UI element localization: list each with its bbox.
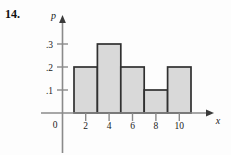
- histogram-figure: .3 .2 .1 0 2 4 6 8 10 p x: [0, 0, 231, 155]
- x-axis-arrow: [206, 110, 214, 117]
- x-tick-label-10: 10: [175, 121, 185, 131]
- bar-bin-1-3: [74, 67, 97, 113]
- y-axis-name-label: p: [50, 10, 56, 21]
- bar-bin-7-9: [144, 90, 167, 113]
- y-tick-label-0-2: .2: [46, 63, 53, 73]
- x-tick-label-2: 2: [83, 121, 88, 131]
- x-axis-name-label: x: [215, 115, 221, 126]
- x-tick-marks: [86, 113, 180, 121]
- x-tick-label-6: 6: [130, 121, 135, 131]
- y-tick-label-0-3: .3: [46, 40, 53, 50]
- x-tick-label-4: 4: [107, 121, 112, 131]
- x-tick-label-0: 0: [53, 120, 58, 130]
- bar-bin-9-11: [168, 67, 191, 113]
- bar-bin-5-7: [121, 67, 144, 113]
- y-axis-arrow: [59, 15, 66, 23]
- figure-page: 14. .3 .2: [0, 0, 231, 155]
- bar-bin-3-5: [97, 44, 120, 113]
- x-tick-label-8: 8: [154, 121, 159, 131]
- bars-group: [74, 44, 191, 113]
- y-tick-label-0-1: .1: [46, 86, 53, 96]
